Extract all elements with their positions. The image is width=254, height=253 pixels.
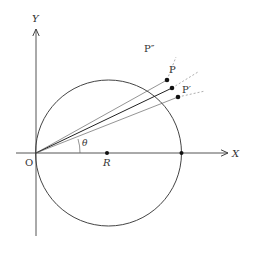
angle-label: θ xyxy=(82,138,88,148)
point-p-prime-dot xyxy=(176,95,181,100)
point-p-double-prime-dot xyxy=(165,78,170,83)
x-intercept-dot xyxy=(180,151,184,155)
ray-to-p-prime xyxy=(36,97,178,153)
point-p-double-prime-label: P″ xyxy=(144,43,155,54)
polar-circle-diagram: Y X O R θ P″ P P′ xyxy=(0,0,254,253)
ray-to-p xyxy=(36,88,172,153)
center-r-dot xyxy=(105,151,109,155)
center-label: R xyxy=(102,157,111,168)
origin-label: O xyxy=(25,157,33,168)
x-axis-label: X xyxy=(231,148,240,159)
diagram-canvas: Y X O R θ P″ P P′ xyxy=(0,0,254,253)
point-p-dot xyxy=(170,86,175,91)
point-p-label: P xyxy=(169,64,176,75)
y-axis-label: Y xyxy=(32,13,40,24)
point-p-prime-label: P′ xyxy=(182,84,192,95)
ray-to-p-double-prime xyxy=(36,80,167,153)
angle-arc xyxy=(78,139,80,153)
